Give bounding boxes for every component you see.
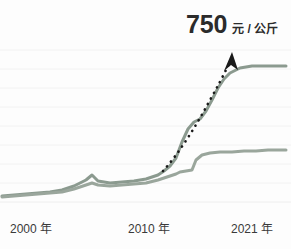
x-axis: 2000 年 2010 年 2021 年 (0, 215, 291, 249)
x-tick-label-2000: 2000 年 (10, 219, 52, 236)
plot-area (0, 0, 291, 215)
price-trend-chart: 750 元 / 公斤 (0, 0, 291, 249)
series-line-upper (2, 66, 286, 196)
arrowhead-icon (224, 52, 238, 71)
series-lines (2, 66, 286, 197)
x-tick-label-2010: 2010 年 (128, 219, 170, 236)
plot-svg (0, 0, 291, 215)
x-tick-label-2021: 2021 年 (231, 219, 273, 236)
series-line-lower (2, 150, 286, 197)
